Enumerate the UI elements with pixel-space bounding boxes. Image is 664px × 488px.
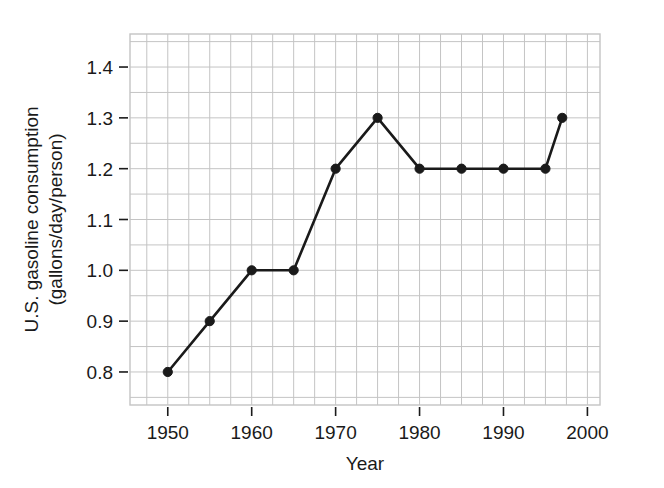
- y-tick-label: 1.1: [87, 210, 113, 231]
- y-tick-label: 1.0: [87, 260, 113, 281]
- x-tick-label: 1950: [147, 422, 189, 443]
- gasoline-consumption-line-chart: 195019601970198019902000 0.80.91.01.11.2…: [0, 0, 664, 488]
- y-axis-title-line: U.S. gasoline consumption: [21, 106, 42, 332]
- data-point-marker: [205, 317, 214, 326]
- chart-figure: 195019601970198019902000 0.80.91.01.11.2…: [0, 0, 664, 488]
- y-tick-label: 1.2: [87, 159, 113, 180]
- data-point-marker: [331, 164, 340, 173]
- data-point-marker: [163, 367, 172, 376]
- data-point-marker: [541, 164, 550, 173]
- x-axis-title: Year: [346, 453, 385, 474]
- data-point-marker: [247, 266, 256, 275]
- y-tick-label: 0.8: [87, 362, 113, 383]
- data-point-marker: [289, 266, 298, 275]
- data-point-marker: [373, 113, 382, 122]
- data-point-marker: [415, 164, 424, 173]
- x-tick-label: 1990: [482, 422, 524, 443]
- y-tick-label: 1.4: [87, 57, 114, 78]
- x-tick-label: 1970: [314, 422, 356, 443]
- y-axis-title-line: (gallons/day/person): [45, 133, 66, 305]
- x-tick-label: 1960: [231, 422, 273, 443]
- data-point-marker: [499, 164, 508, 173]
- data-point-marker: [558, 113, 567, 122]
- y-tick-label: 0.9: [87, 311, 113, 332]
- x-tick-label: 1980: [398, 422, 440, 443]
- x-tick-label: 2000: [566, 422, 608, 443]
- y-tick-label: 1.3: [87, 108, 113, 129]
- data-point-marker: [457, 164, 466, 173]
